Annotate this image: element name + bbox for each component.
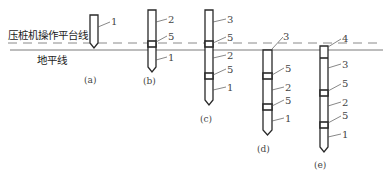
joint-5-upper [263, 73, 272, 79]
joint-5 [148, 41, 156, 47]
pile-d-label-2: 2 [285, 82, 291, 93]
pile-e-label-1: 1 [342, 129, 348, 140]
pile-e-label-5-lower: 5 [342, 110, 348, 121]
joint-5-upper [205, 41, 213, 47]
pile-c-label-2: 2 [227, 50, 233, 61]
pile-c-label-5-upper: 5 [227, 32, 233, 43]
pile-d-label-1: 1 [285, 113, 291, 124]
pile-driving-sequence-diagram: 压桩机操作平台线 地平线 1 (a) 2 5 1 (b) 3 5 2 5 1 (… [0, 0, 383, 174]
pile-a-caption: (a) [84, 75, 96, 85]
pile-d: 3 5 2 5 1 (d) [257, 31, 291, 154]
joint-5-lower [205, 73, 213, 79]
pile-e-label-5-upper: 5 [342, 78, 348, 89]
pile-b-label-1: 1 [168, 52, 174, 63]
pile-e-label-2: 2 [342, 97, 348, 108]
ground-line-label: 地平线 [37, 54, 68, 66]
pile-b: 2 5 1 (b) [143, 10, 174, 86]
pile-d-label-5-upper: 5 [285, 63, 291, 74]
pile-c-caption: (c) [200, 114, 212, 124]
pile-e: 4 3 5 2 5 1 (e) [314, 33, 348, 170]
pile-d-label-3: 3 [283, 31, 289, 42]
pile-segment-1 [90, 15, 98, 48]
pile-c-label-1: 1 [227, 82, 233, 93]
joint-5-lower [263, 104, 272, 110]
pile-b-caption: (b) [143, 76, 156, 86]
pile-b-label-2: 2 [168, 14, 174, 25]
pile-c-label-3: 3 [227, 14, 233, 25]
pile-d-label-5-lower: 5 [285, 95, 291, 106]
pile-e-label-3: 3 [342, 59, 348, 70]
joint-5-upper [320, 90, 328, 96]
pile-e-caption: (e) [314, 160, 326, 170]
pile-c: 3 5 2 5 1 (c) [200, 10, 233, 124]
pile-e-label-4: 4 [342, 33, 348, 44]
pile-c-label-5-lower: 5 [227, 64, 233, 75]
pile-d-caption: (d) [257, 144, 270, 154]
platform-line-label: 压桩机操作平台线 [8, 29, 89, 41]
pile-b-label-5: 5 [168, 31, 174, 42]
pile-a-label-1: 1 [111, 16, 117, 27]
joint-5-lower [320, 122, 328, 128]
